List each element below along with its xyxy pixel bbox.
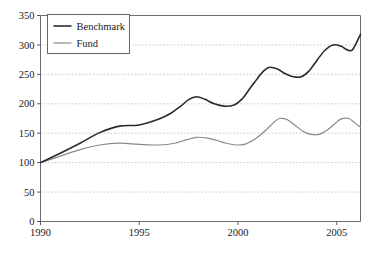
x-tick-label-2000: 2000 <box>228 227 249 238</box>
y-tick-label-350: 350 <box>19 10 35 21</box>
legend-label-fund: Fund <box>77 38 99 49</box>
legend-label-benchmark: Benchmark <box>77 21 126 32</box>
y-tick-label-50: 50 <box>24 187 35 198</box>
x-tick-label-1990: 1990 <box>30 227 51 238</box>
y-tick-label-300: 300 <box>19 40 35 51</box>
y-tick-label-200: 200 <box>19 98 35 109</box>
y-tick-label-150: 150 <box>19 128 35 139</box>
x-axis: 1990199520002005 <box>30 222 347 238</box>
x-tick-label-2005: 2005 <box>326 227 347 238</box>
y-tick-label-100: 100 <box>19 157 35 168</box>
y-tick-label-250: 250 <box>19 69 35 80</box>
chart-container: 050100150200250300350 1990199520002005 B… <box>0 0 378 258</box>
x-tick-label-1995: 1995 <box>129 227 150 238</box>
chart-legend: BenchmarkFund <box>48 15 130 54</box>
line-chart: 050100150200250300350 1990199520002005 B… <box>0 0 378 258</box>
y-axis: 050100150200250300350 <box>19 10 41 227</box>
y-tick-label-0: 0 <box>29 216 34 227</box>
series-line-fund <box>41 118 361 162</box>
